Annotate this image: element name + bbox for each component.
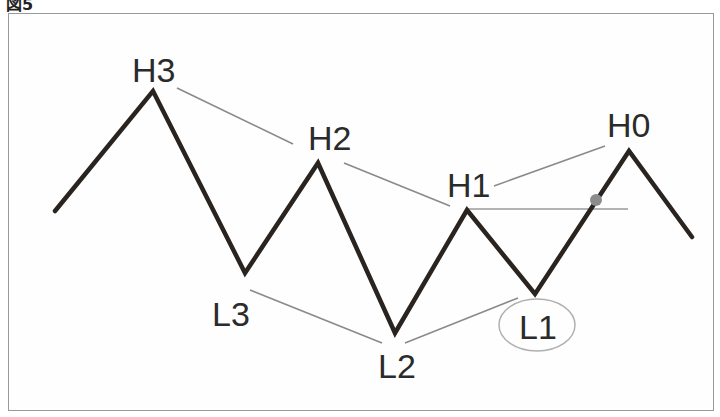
zigzag-price-line <box>55 91 692 333</box>
label-l1: L1 <box>519 308 557 346</box>
label-l3: L3 <box>212 295 250 333</box>
zigzag-diagram: H3 H2 H1 H0 L3 L2 L1 <box>0 0 720 417</box>
label-l2: L2 <box>378 347 416 385</box>
label-h0: H0 <box>607 106 650 144</box>
breakout-point-marker <box>590 194 602 206</box>
label-h2: H2 <box>308 119 351 157</box>
label-h1: H1 <box>447 166 490 204</box>
guide-l2-l1 <box>405 298 518 343</box>
guide-h2-h1 <box>344 163 450 206</box>
high-guide-lines <box>177 88 605 206</box>
guide-l3-l2 <box>250 290 382 343</box>
label-h3: H3 <box>132 51 175 89</box>
guide-h3-h2 <box>177 88 293 144</box>
guide-h1-h0 <box>494 146 605 186</box>
low-guide-lines <box>250 290 518 343</box>
